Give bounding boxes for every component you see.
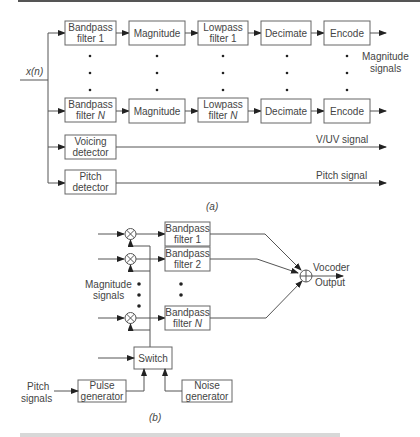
magnitude-1-label: Magnitude <box>134 28 181 39</box>
vocoder-diagram: x(n) Bandpass filter 1 Magnitude Lowpass… <box>0 0 420 437</box>
multiplier-row-2 <box>98 254 165 272</box>
bandpass-filter-2-b-label: Bandpass <box>165 248 209 259</box>
vuv-signal-label: V/UV signal <box>316 134 368 145</box>
svg-text:Output: Output <box>315 277 345 288</box>
svg-text:filter 1: filter 1 <box>209 33 237 44</box>
encode-1-label: Encode <box>330 28 364 39</box>
svg-text:signals: signals <box>93 290 124 301</box>
svg-text:detector: detector <box>72 147 109 158</box>
svg-text:filter N: filter N <box>209 110 239 121</box>
pitch-signal-label: Pitch signal <box>316 170 367 181</box>
bandpass-filter-1-label: Bandpass <box>68 22 112 33</box>
lowpass-filter-1-label: Lowpass <box>203 22 242 33</box>
svg-text:signals: signals <box>370 63 401 74</box>
channel-ellipsis <box>89 55 349 92</box>
input-label: x(n) <box>25 66 43 77</box>
bandpass-filter-n-b-label: Bandpass <box>165 307 209 318</box>
pulse-generator-label: Pulse <box>89 380 114 391</box>
bandpass-filter-1-b-label: Bandpass <box>165 223 209 234</box>
svg-text:filter N: filter N <box>173 318 203 329</box>
svg-text:generator: generator <box>186 391 229 402</box>
magnitude-signals-label-b: Magnitude <box>85 279 132 290</box>
figure-b: Magnitude signals Bandpass filter 1 Band… <box>21 222 350 423</box>
figure-a: x(n) Bandpass filter 1 Magnitude Lowpass… <box>20 21 409 212</box>
magnitude-signals-label: Magnitude <box>362 51 409 62</box>
multiplier-row-n <box>98 313 165 331</box>
svg-text:generator: generator <box>81 391 124 402</box>
magnitude-n-label: Magnitude <box>134 106 181 117</box>
switch-label: Switch <box>138 353 167 364</box>
decimate-1-label: Decimate <box>265 28 308 39</box>
bandpass-filter-n-label: Bandpass <box>68 99 112 110</box>
caption-b: (b) <box>149 412 161 423</box>
decimate-n-label: Decimate <box>265 106 308 117</box>
svg-text:filter 2: filter 2 <box>174 259 202 270</box>
svg-text:filter 1: filter 1 <box>77 33 105 44</box>
channel-1: Bandpass filter 1 Magnitude Lowpass filt… <box>65 21 386 45</box>
caption-a: (a) <box>206 201 218 212</box>
pitch-detector-label: Pitch <box>79 171 101 182</box>
truncated-caption <box>20 433 340 437</box>
multiplier-row-1 <box>98 229 165 247</box>
svg-text:detector: detector <box>72 182 109 193</box>
noise-generator-label: Noise <box>194 380 220 391</box>
pitch-signals-label: Pitch <box>27 381 49 392</box>
voicing-detector-label: Voicing <box>74 136 106 147</box>
encode-n-label: Encode <box>330 106 364 117</box>
svg-text:filter 1: filter 1 <box>174 234 202 245</box>
vocoder-output-label: Vocoder <box>313 262 350 273</box>
lowpass-filter-n-label: Lowpass <box>203 99 242 110</box>
svg-text:signals: signals <box>21 393 52 404</box>
channel-n: Bandpass filter N Magnitude Lowpass filt… <box>65 98 386 123</box>
svg-text:filter N: filter N <box>76 110 106 121</box>
